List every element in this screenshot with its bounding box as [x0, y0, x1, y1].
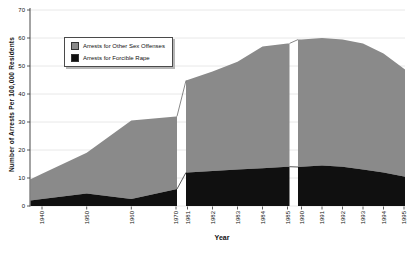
- x-tick-label-1981: 1981: [185, 210, 191, 224]
- x-axis-title: Year: [162, 234, 282, 241]
- x-tick-label-1982: 1982: [210, 210, 216, 224]
- x-tick-label-1940: 1940: [39, 210, 45, 224]
- legend-swatch-other-sex-offenses-icon: [71, 42, 79, 50]
- break-connector-top-0: [177, 81, 186, 117]
- legend-label-other-sex-offenses: Arrests for Other Sex Offenses: [83, 43, 165, 49]
- x-tick-label-1983: 1983: [235, 210, 241, 224]
- x-tick-label-1960: 1960: [129, 210, 135, 224]
- x-tick-label-1993: 1993: [360, 210, 366, 224]
- arrests-area-chart-figure: 0102030405060701940195019601970198119821…: [0, 0, 408, 258]
- x-tick-label-1984: 1984: [260, 210, 266, 224]
- x-tick-label-1995: 1995: [401, 210, 407, 224]
- legend-entry-forcible-rape: Arrests for Forcible Rape: [71, 54, 165, 62]
- legend-entry-other-sex-offenses: Arrests for Other Sex Offenses: [71, 42, 165, 50]
- x-tick-label-1985: 1985: [285, 210, 291, 224]
- y-tick-label-40: 40: [18, 91, 25, 97]
- y-tick-label-0: 0: [22, 203, 26, 209]
- area-other-sex-offenses-seg0: [31, 116, 178, 200]
- x-tick-label-1991: 1991: [319, 210, 325, 224]
- y-tick-label-30: 30: [18, 119, 25, 125]
- plot-area: 0102030405060701940195019601970198119821…: [0, 0, 408, 258]
- x-tick-label-1950: 1950: [84, 210, 90, 224]
- y-axis-title: Number of Arrests Per 100,000 Residents: [8, 30, 15, 180]
- area-other-sex-offenses-seg2: [298, 38, 405, 177]
- x-tick-label-1970: 1970: [173, 210, 179, 224]
- y-tick-label-20: 20: [18, 147, 25, 153]
- y-tick-label-70: 70: [18, 7, 25, 13]
- legend-box: Arrests for Other Sex Offenses Arrests f…: [64, 37, 173, 67]
- y-tick-label-60: 60: [18, 35, 25, 41]
- break-connector-rape-0: [177, 173, 186, 190]
- area-forcible-rape-seg1: [186, 167, 290, 206]
- break-connector-top-1: [290, 40, 299, 44]
- x-tick-label-1992: 1992: [340, 210, 346, 224]
- legend-label-forcible-rape: Arrests for Forcible Rape: [83, 55, 150, 61]
- x-tick-label-1990: 1990: [299, 210, 305, 224]
- x-tick-label-1994: 1994: [381, 210, 387, 224]
- y-tick-label-50: 50: [18, 63, 25, 69]
- y-tick-label-10: 10: [18, 175, 25, 181]
- area-other-sex-offenses-seg1: [186, 43, 290, 172]
- legend-swatch-forcible-rape-icon: [71, 54, 79, 62]
